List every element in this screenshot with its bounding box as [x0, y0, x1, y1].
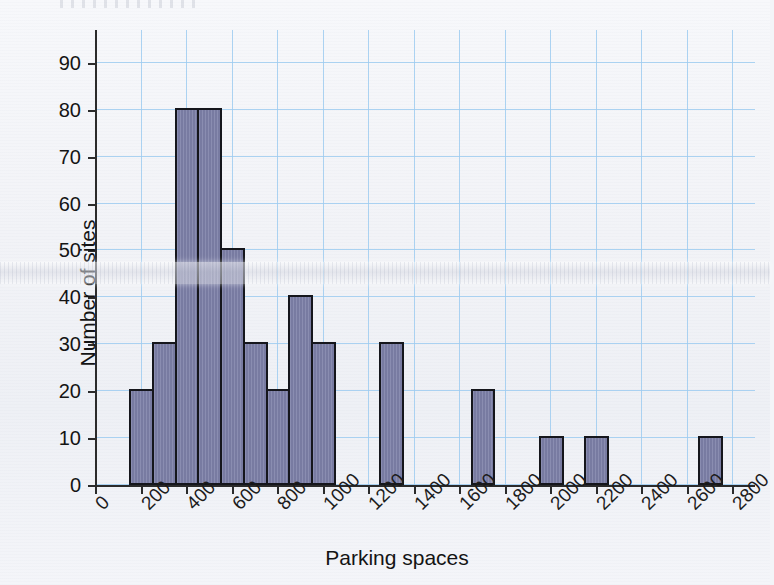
histogram-bar: [243, 342, 268, 485]
y-axis-tick-label: 90: [0, 51, 81, 74]
cropped-text-sliver: [60, 0, 200, 8]
y-axis-tick-label: 60: [0, 192, 81, 215]
grid-line-vertical: [505, 30, 506, 487]
histogram-bar: [584, 436, 609, 485]
x-axis-title-text: Parking spaces: [301, 546, 469, 570]
grid-line-vertical: [732, 30, 733, 487]
histogram-bar: [311, 342, 336, 485]
grid-line-vertical: [414, 30, 415, 487]
x-axis-title: Parking spaces: [0, 546, 770, 570]
grid-line-vertical: [459, 30, 460, 487]
y-axis-tick: [88, 438, 96, 440]
y-axis-tick: [88, 157, 96, 159]
grid-line-horizontal: [95, 62, 755, 63]
histogram-plot-area: [95, 30, 755, 487]
histogram-bar: [175, 108, 200, 485]
y-axis-tick-label: 50: [0, 239, 81, 262]
y-axis-tick: [88, 391, 96, 393]
y-axis-tick-label: 70: [0, 145, 81, 168]
histogram-bar: [288, 295, 313, 485]
y-axis-tick-label: 0: [0, 474, 81, 497]
y-axis-tick-label: 80: [0, 98, 81, 121]
y-axis-tick-label: 20: [0, 380, 81, 403]
histogram-bar: [152, 342, 177, 485]
y-axis-tick: [88, 63, 96, 65]
y-axis-tick-label: 40: [0, 286, 81, 309]
y-axis-tick-label: 30: [0, 333, 81, 356]
y-axis-title: Number of sites: [76, 219, 100, 366]
y-axis-tick: [88, 110, 96, 112]
histogram-bar: [129, 389, 154, 485]
y-axis-tick-label: 10: [0, 427, 81, 450]
grid-line-vertical: [687, 30, 688, 487]
histogram-bar: [379, 342, 404, 485]
histogram-bar: [220, 248, 245, 485]
histogram-bar: [539, 436, 564, 485]
grid-line-vertical: [596, 30, 597, 487]
y-axis-tick: [88, 204, 96, 206]
histogram-bar: [197, 108, 222, 485]
grid-line-vertical: [368, 30, 369, 487]
grid-line-vertical: [550, 30, 551, 487]
histogram-bar: [266, 389, 291, 485]
grid-line-vertical: [641, 30, 642, 487]
